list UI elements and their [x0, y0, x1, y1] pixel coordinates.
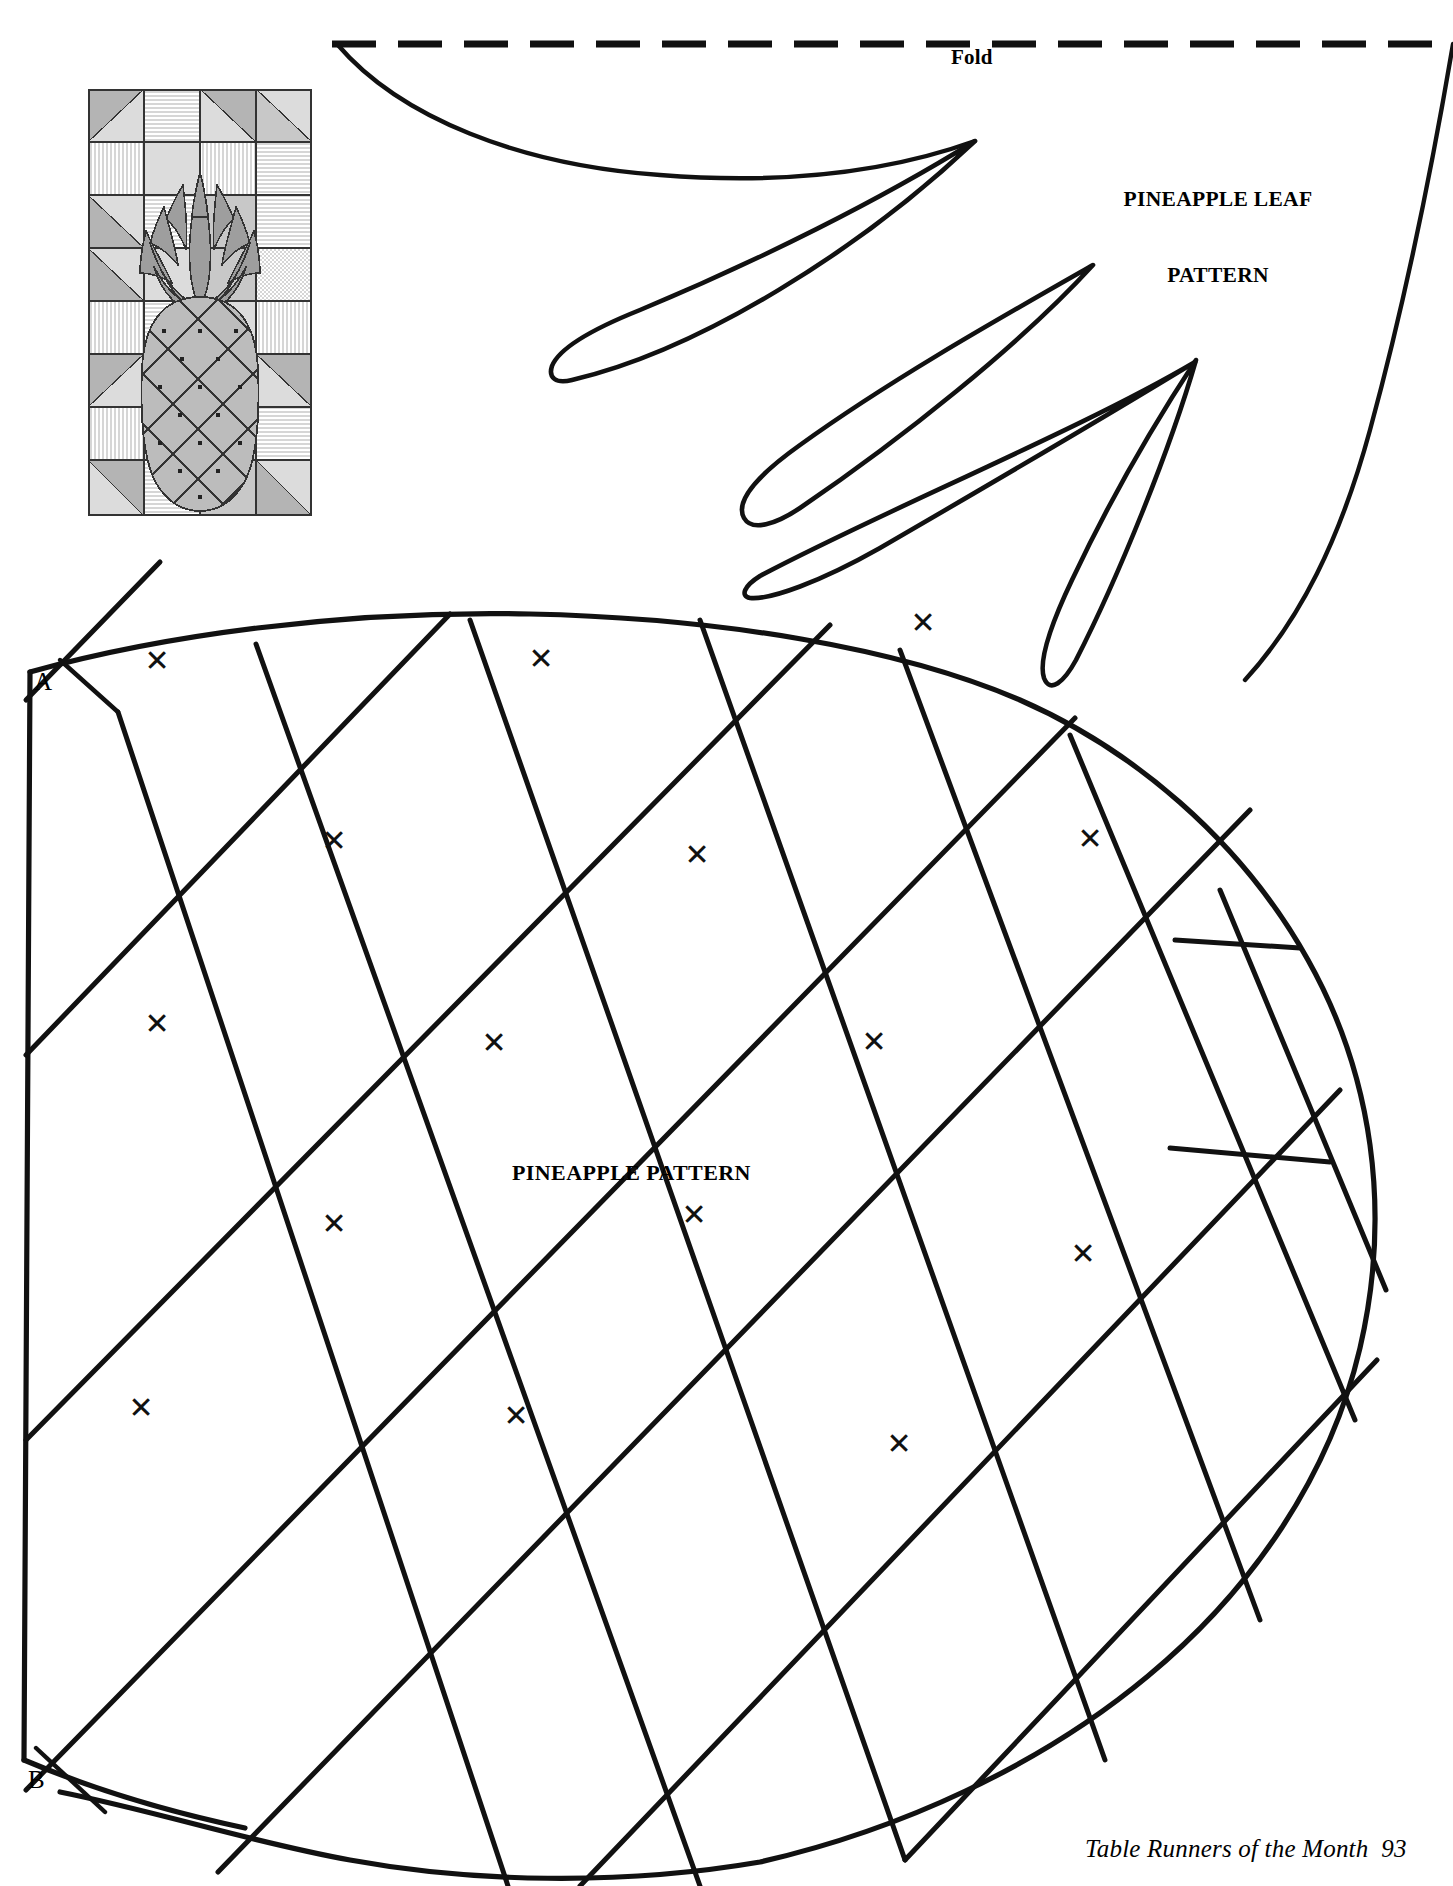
- x-mark-icon: ✕: [681, 1200, 706, 1230]
- leaf-pattern-title-line2: PATTERN: [1018, 263, 1418, 288]
- x-mark-icon: ✕: [321, 1209, 346, 1239]
- right-edge-segment-1: [1175, 940, 1300, 948]
- x-mark-icon: ✕: [1077, 824, 1102, 854]
- mark-a-tick: [60, 660, 118, 712]
- leaf-pattern-title-line1: PINEAPPLE LEAF: [1018, 187, 1418, 212]
- x-mark-icon: ✕: [144, 1009, 169, 1039]
- placement-mark-b: B: [28, 1765, 45, 1795]
- crosshatch-down-right: [118, 620, 1386, 1886]
- pineapple-left-edge: [24, 672, 30, 1760]
- page-footer: Table Runners of the Month 93: [1085, 1834, 1407, 1864]
- x-mark-icon: ✕: [321, 826, 346, 856]
- x-mark-icon: ✕: [684, 840, 709, 870]
- mark-b-tick: [36, 1748, 105, 1812]
- pineapple-body-outline: [30, 614, 1375, 1879]
- x-mark-icon: ✕: [886, 1429, 911, 1459]
- right-edge-segment-2: [1170, 1148, 1330, 1162]
- leaf-pattern-title: PINEAPPLE LEAF PATTERN: [1018, 136, 1418, 339]
- pattern-page: Fold PINEAPPLE LEAF PATTERN PINEAPPLE PA…: [0, 0, 1453, 1886]
- x-mark-icon: ✕: [1070, 1239, 1095, 1269]
- x-mark-icon: ✕: [861, 1027, 886, 1057]
- x-mark-icon: ✕: [528, 644, 553, 674]
- pineapple-pattern-title: PINEAPPLE PATTERN: [512, 1160, 751, 1186]
- x-mark-icon: ✕: [128, 1393, 153, 1423]
- x-mark-icon: ✕: [910, 608, 935, 638]
- x-mark-icon: ✕: [144, 646, 169, 676]
- x-mark-icon: ✕: [481, 1028, 506, 1058]
- placement-mark-a: A: [34, 667, 52, 697]
- fold-label: Fold: [951, 45, 993, 70]
- quilt-block-preview: [88, 89, 312, 516]
- x-mark-icon: ✕: [503, 1401, 528, 1431]
- leaf-spine-long: [337, 44, 975, 178]
